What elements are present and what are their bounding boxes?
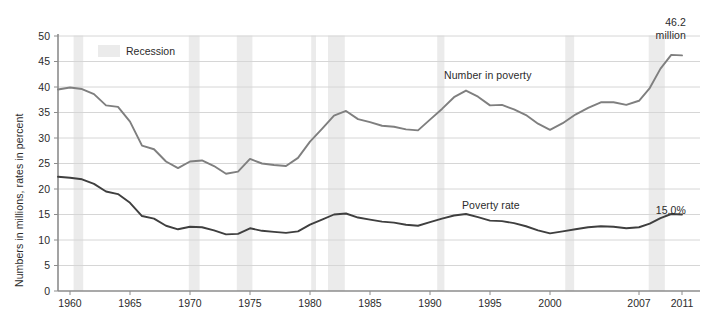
y-tick-label: 30 — [38, 132, 50, 144]
y-tick-label: 40 — [38, 81, 50, 93]
x-tick-label: 1965 — [118, 297, 142, 309]
rate-end-value-label: 15.0% — [656, 204, 686, 216]
x-tick-label: 2000 — [538, 297, 562, 309]
x-tick-label: 1985 — [358, 297, 382, 309]
number-end-unit-label: million — [656, 29, 686, 41]
y-tick-labels: 05101520253035404550 — [38, 30, 50, 297]
series-label-number-in-poverty: Number in poverty — [444, 69, 531, 81]
recession-legend-swatch — [98, 45, 120, 57]
series-label-poverty-rate: Poverty rate — [462, 199, 520, 211]
y-tick-label: 20 — [38, 183, 50, 195]
y-tick-label: 15 — [38, 208, 50, 220]
y-tick-label: 5 — [44, 259, 50, 271]
y-tick-label: 0 — [44, 285, 50, 297]
x-axis — [58, 291, 700, 295]
recession-legend-label: Recession — [126, 45, 175, 57]
y-axis — [54, 34, 58, 291]
number-end-value-label: 46.2 — [665, 16, 686, 28]
series-line — [58, 55, 682, 174]
series-line — [58, 177, 682, 235]
x-tick-label: 2011 — [671, 297, 694, 309]
x-tick-label: 1980 — [298, 297, 322, 309]
x-tick-label: 1960 — [58, 297, 82, 309]
x-tick-label: 2007 — [627, 297, 651, 309]
series-lines — [58, 55, 682, 235]
x-tick-label: 1970 — [178, 297, 202, 309]
y-tick-label: 25 — [38, 157, 50, 169]
y-tick-label: 35 — [38, 106, 50, 118]
x-tick-labels: 1960196519701975198019851990199520002007… — [58, 297, 693, 309]
chart-root: 05101520253035404550 1960196519701975198… — [0, 0, 702, 328]
x-tick-label: 1995 — [478, 297, 502, 309]
x-tick-label: 1990 — [418, 297, 442, 309]
y-tick-label: 10 — [38, 234, 50, 246]
y-axis-title: Numbers in millions, rates in percent — [13, 113, 25, 287]
y-tick-label: 45 — [38, 55, 50, 67]
x-tick-label: 1975 — [238, 297, 262, 309]
y-tick-label: 50 — [38, 30, 50, 42]
